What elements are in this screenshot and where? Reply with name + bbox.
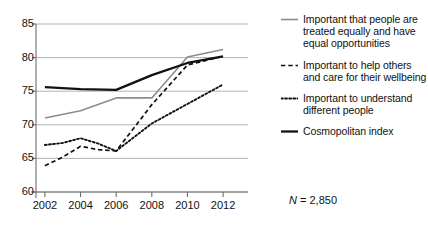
legend-item-label: Important to help others and care for th… bbox=[303, 59, 428, 83]
x-axis-tick-label: 2002 bbox=[25, 199, 65, 211]
n-value: = 2,850 bbox=[297, 194, 337, 206]
x-axis-tick-label: 2004 bbox=[61, 199, 101, 211]
y-axis-tick-label: 70 bbox=[8, 119, 34, 130]
legend-item: Cosmopolitan index bbox=[281, 125, 428, 137]
series-line-3 bbox=[45, 84, 223, 151]
legend-item: Important to understand different people bbox=[281, 92, 428, 116]
x-axis-tick-labels: 200220042006200820102012 bbox=[36, 199, 236, 215]
x-axis-tick-label: 2012 bbox=[203, 199, 243, 211]
legend-item-label: Important to understand different people bbox=[303, 92, 428, 116]
plot-svg bbox=[0, 0, 248, 231]
y-axis-tick-label: 80 bbox=[8, 52, 34, 63]
x-axis-tick-label: 2006 bbox=[96, 199, 136, 211]
y-axis-tick-label: 60 bbox=[8, 186, 34, 197]
legend-item-label: Cosmopolitan index bbox=[303, 125, 393, 137]
x-axis-tick-label: 2008 bbox=[132, 199, 172, 211]
chart-figure: 858075706560 200220042006200820102012 N … bbox=[0, 0, 428, 231]
y-axis-tick-label: 75 bbox=[8, 85, 34, 96]
legend-line-swatch bbox=[281, 125, 298, 137]
legend-item-label: Important that people are treated equall… bbox=[303, 13, 428, 50]
plot-area bbox=[0, 0, 248, 231]
legend-item: Important to help others and care for th… bbox=[281, 59, 428, 83]
series-line-2 bbox=[45, 56, 223, 166]
y-axis-tick-labels: 858075706560 bbox=[8, 0, 34, 231]
n-symbol: N bbox=[289, 194, 297, 206]
sample-size-annotation: N = 2,850 bbox=[289, 194, 337, 206]
y-axis-tick-label: 65 bbox=[8, 152, 34, 163]
legend-item: Important that people are treated equall… bbox=[281, 13, 428, 50]
y-axis-tick-label: 85 bbox=[8, 18, 34, 29]
x-axis-tick-label: 2010 bbox=[167, 199, 207, 211]
legend-line-swatch bbox=[281, 92, 298, 104]
legend-line-swatch bbox=[281, 59, 298, 71]
chart-legend: Important that people are treated equall… bbox=[281, 13, 428, 147]
series-line-1 bbox=[45, 50, 223, 119]
legend-line-swatch bbox=[281, 13, 298, 25]
series-line-4 bbox=[45, 56, 223, 90]
